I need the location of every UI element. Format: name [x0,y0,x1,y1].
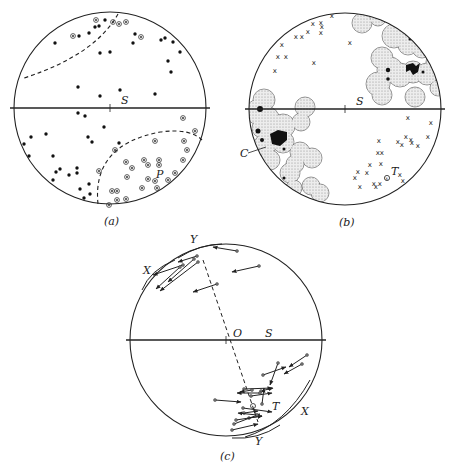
circled-pole-dot [194,130,196,132]
x-mark: x [276,53,280,61]
arrow-origin-dot [233,423,236,426]
x-mark: x [358,183,362,191]
solid-maximum-dot [386,68,390,72]
solid-maximum-dot [260,138,264,142]
stipple-fill [413,39,432,58]
label-c: C [240,147,249,160]
stipple-fill [312,185,329,202]
x-mark: x [426,133,430,141]
arrow-origin-dot [242,407,245,410]
pole-dot [88,192,91,195]
pole-dot [93,25,96,28]
pole-dot [108,50,111,53]
x-mark: x [294,33,298,41]
pole-dot [86,135,89,138]
pole-dot [82,196,85,199]
x-mark: x [429,119,433,127]
rotation-arrow [244,411,258,413]
rotation-arrow [213,247,237,251]
circled-pole-dot [114,149,116,151]
x-mark: x [284,53,288,61]
x-mark: x [380,149,384,157]
arrow-origin-dot [256,414,259,417]
stipple-fill [253,119,272,138]
solid-maximum-dot [422,71,425,74]
circled-pole-dot [182,117,184,119]
range-bracket [178,244,222,258]
panel-c-projection: OSYXTXY(c) [126,233,326,463]
label-o: O [233,327,242,340]
pole-dot [90,140,93,143]
panel-caption: (b) [339,216,355,229]
solid-maximum-dot [283,177,286,180]
dashed-axis-line [203,260,258,422]
circled-pole-dot [118,23,120,25]
label-s: S [356,95,364,108]
panel-caption: (a) [104,215,119,228]
pole-dot [153,92,156,95]
pole-dot [77,34,80,37]
circled-pole-dot [125,198,127,200]
arrow-origin-dot [258,265,261,268]
pole-dot [53,41,56,44]
circled-pole-dot [116,199,118,201]
pole-dot [166,59,169,62]
circled-pole-dot [125,161,127,163]
circled-pole-dot [143,159,145,161]
x-mark: x [416,142,420,150]
circled-pole-dot [72,35,74,37]
x-mark: x [273,67,277,75]
circled-pole-dot [158,164,160,166]
pole-dot [87,182,90,185]
x-mark: x [377,137,381,145]
x-mark: x [368,161,372,169]
arrow-origin-dot [243,388,246,391]
pole-dot [54,170,57,173]
pole-dot [169,70,172,73]
arrow-origin-dot [231,429,234,432]
label-x: X [142,264,152,277]
pole-dot [67,173,70,176]
pole-dot [98,94,101,97]
label-t: T [272,400,281,413]
x-mark: x [280,41,284,49]
x-mark: x [348,39,352,47]
pole-dot [87,31,90,34]
arrow-origin-dot [182,264,185,267]
stipple-fill [293,114,310,131]
pole-dot [76,111,79,114]
circled-pole-dot [186,149,188,151]
label-y: Y [255,435,264,448]
arrow-origin-dot [197,261,200,264]
x-mark: x [330,12,334,20]
pole-dot [75,166,78,169]
arrow-origin-dot [306,354,309,357]
label-s: S [265,327,273,340]
panel-caption: (c) [220,450,235,463]
arrow-origin-dot [193,258,196,261]
pole-dot [51,154,54,157]
rotation-arrow [240,390,252,392]
pole-dot [98,51,101,54]
x-mark: x [311,20,315,28]
arrow-origin-dot [236,250,239,253]
pole-dot [29,135,32,138]
circled-pole-dot [167,179,169,181]
circled-pole-dot [141,187,143,189]
rotation-arrow [232,424,258,430]
rotation-arrow [270,363,278,385]
circled-axis-x: x [385,175,388,181]
circled-pole-dot [116,190,118,192]
dashed-girdle-boundary [24,14,118,78]
x-mark: x [401,177,405,185]
circled-pole-dot [131,167,133,169]
x-mark: x [409,136,413,144]
pole-dot [76,85,79,88]
label-s: S [121,94,129,107]
arrow-origin-dot [179,266,182,269]
circled-pole-dot [174,172,176,174]
panel-a-projection: SP(a) [10,12,210,228]
x-mark: x [312,59,316,67]
pole-dot [118,88,121,91]
arrow-origin-dot [259,392,262,395]
